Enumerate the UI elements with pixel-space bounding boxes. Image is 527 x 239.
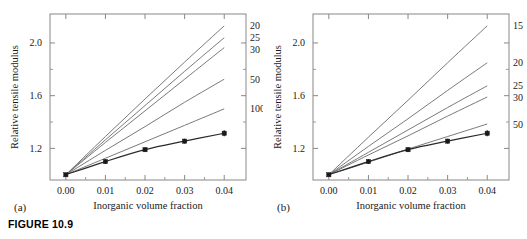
model-curve-25 [329,86,487,175]
model-curve-50 [66,79,224,175]
y-tick-label: 2.0 [293,37,306,48]
x-axis-title: Inorganic volume fraction [93,200,203,211]
data-point-marker [446,139,450,143]
x-tick-label: 0.00 [320,185,338,196]
y-tick-label: 1.6 [30,90,43,101]
curve-label-20: 20 [250,20,260,31]
curve-label-25: 25 [513,80,523,91]
model-curve-30 [66,48,224,175]
x-tick-label: 0.02 [399,185,417,196]
axes-frame [50,14,246,180]
x-tick-label: 0.01 [97,185,115,196]
model-curve-100 [66,109,224,175]
y-tick-label: 1.2 [30,143,43,154]
plot-area-b: 0.000.010.020.030.041.21.62.01520253050I… [263,0,526,215]
y-tick-label: 1.2 [293,143,306,154]
y-axis-title: Relative tensile modulus [272,45,283,149]
data-point-marker [143,148,147,152]
model-curve-15 [329,26,487,175]
data-point-marker [183,139,187,143]
curve-label-15: 15 [513,20,523,31]
data-point-marker [64,173,68,177]
data-point-marker [327,173,331,177]
model-curve-30 [329,97,487,175]
plot-area-a: 0.000.010.020.030.041.21.62.020253050100… [0,0,263,215]
model-curve-20 [66,26,224,175]
x-tick-label: 0.04 [215,185,233,196]
curve-label-30: 30 [250,44,260,55]
curve-label-50: 50 [513,119,523,130]
curve-label-50: 50 [250,74,260,85]
y-axis-title: Relative tensile modulus [9,45,20,149]
model-curve-20 [329,63,487,175]
x-tick-label: 0.04 [478,185,496,196]
x-tick-label: 0.03 [439,185,457,196]
model-curve-25 [66,38,224,175]
figure-caption: FIGURE 10.9 [8,218,73,230]
x-tick-label: 0.01 [360,185,378,196]
curve-label-20: 20 [513,57,523,68]
panel-b-tag: (b) [277,201,290,213]
x-axis-title: Inorganic volume fraction [356,200,466,211]
chart-panel-b: 0.000.010.020.030.041.21.62.01520253050I… [263,0,526,215]
x-tick-label: 0.00 [57,185,75,196]
data-point-marker [406,148,410,152]
chart-panel-a: 0.000.010.020.030.041.21.62.020253050100… [0,0,263,215]
data-point-marker [366,159,370,163]
data-point-marker [103,159,107,163]
x-tick-label: 0.02 [136,185,154,196]
y-tick-label: 1.6 [293,90,306,101]
curve-label-100: 100 [250,103,263,114]
figure-10-9: 0.000.010.020.030.041.21.62.020253050100… [0,0,527,239]
x-tick-label: 0.03 [176,185,194,196]
data-point-marker [485,131,489,135]
experimental-line [329,133,487,175]
curve-label-25: 25 [250,32,260,43]
y-tick-label: 2.0 [30,37,43,48]
curve-label-30: 30 [513,92,523,103]
data-point-marker [222,131,226,135]
panel-a-tag: (a) [14,201,26,213]
